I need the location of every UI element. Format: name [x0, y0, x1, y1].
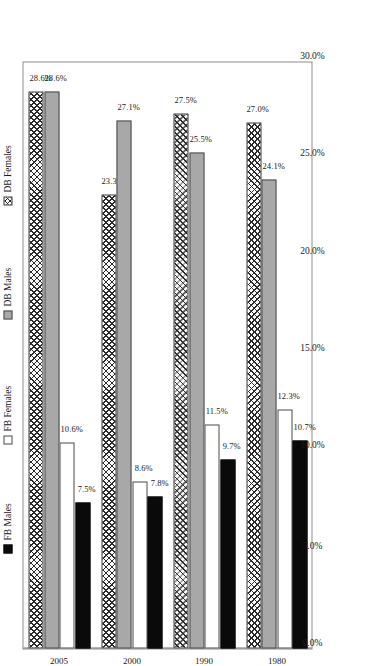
legend-item-fb-females[interactable]: FB Females [3, 385, 13, 444]
bar-db-males-1980 [261, 179, 276, 648]
bar-row: 25.5% [189, 60, 204, 648]
bar-db-males-1990 [189, 152, 204, 648]
value-tick-15.0: 15.0% [300, 344, 325, 354]
legend-item-fb-males[interactable]: FB Males [3, 503, 13, 553]
bar-row: 27.5% [173, 60, 188, 648]
legend-swatch-db-males [3, 310, 12, 319]
value-tick-25.0: 25.0% [300, 149, 325, 159]
bar-value-label: 9.7% [222, 442, 240, 451]
legend-swatch-fb-females [3, 435, 12, 444]
bar-row: 7.5% [75, 60, 90, 648]
chart-legend: FB MalesFB FemalesDB MalesDB Females [0, 61, 20, 649]
value-axis-ticks: 0.0%5.0%10.0%15.0%20.0%25.0%30.0% [312, 61, 367, 649]
bar-fb-females-2000 [132, 481, 147, 648]
bar-row: 23.3% [101, 60, 116, 648]
bar-row: 27.1% [116, 60, 131, 648]
legend-label: FB Females [3, 385, 13, 431]
bar-group-2005: 28.6%28.6%10.6%7.5%2005 [23, 62, 96, 648]
legend-label: FB Males [3, 503, 13, 540]
bar-row: 27.0% [246, 60, 261, 648]
value-tick-10.0: 10.0% [300, 441, 325, 451]
bar-row: 12.3% [277, 60, 292, 648]
plot-area: 28.6%28.6%10.6%7.5%200523.3%27.1%8.6%7.8… [22, 61, 312, 649]
bar-fb-females-1980 [277, 409, 292, 648]
bar-fb-males-2005 [75, 502, 90, 648]
bar-row: 8.6% [132, 60, 147, 648]
bar-fb-males-1990 [220, 459, 235, 648]
bar-value-label: 7.5% [77, 485, 95, 494]
legend-swatch-fb-males [3, 544, 12, 553]
bar-db-females-2000 [101, 194, 116, 648]
bar-row: 28.6% [28, 60, 43, 648]
bar-row: 9.7% [220, 60, 235, 648]
bar-row: 28.6% [44, 60, 59, 648]
bar-fb-females-1990 [204, 424, 219, 648]
bar-row: 7.8% [147, 60, 162, 648]
legend-label: DB Females [3, 145, 13, 192]
bar-value-label: 7.8% [150, 479, 168, 488]
legend-item-db-females[interactable]: DB Females [3, 145, 13, 205]
category-label-1990: 1990 [195, 657, 213, 666]
category-label-2000: 2000 [122, 657, 140, 666]
bar-row: 10.6% [59, 60, 74, 648]
bar-group-2000: 23.3%27.1%8.6%7.8%2000 [96, 62, 169, 648]
bar-db-females-2005 [28, 91, 43, 648]
category-label-2005: 2005 [50, 657, 68, 666]
value-tick-5.0: 5.0% [302, 541, 322, 551]
bar-fb-females-2005 [59, 442, 74, 648]
bar-fb-males-2000 [147, 496, 162, 648]
bar-row: 24.1% [261, 60, 276, 648]
bar-db-females-1990 [173, 113, 188, 648]
bar-groups: 28.6%28.6%10.6%7.5%200523.3%27.1%8.6%7.8… [23, 62, 311, 648]
value-tick-20.0: 20.0% [300, 247, 325, 257]
legend-label: DB Males [3, 267, 13, 306]
bar-db-males-2005 [44, 91, 59, 648]
category-label-1980: 1980 [267, 657, 285, 666]
bar-db-males-2000 [116, 120, 131, 648]
bar-db-females-1980 [246, 122, 261, 648]
legend-swatch-db-females [3, 196, 12, 205]
value-tick-0.0: 0.0% [302, 638, 322, 648]
bar-group-1990: 27.5%25.5%11.5%9.7%1990 [168, 62, 241, 648]
legend-item-db-males[interactable]: DB Males [3, 267, 13, 319]
bar-row: 11.5% [204, 60, 219, 648]
value-tick-30.0: 30.0% [300, 52, 325, 62]
